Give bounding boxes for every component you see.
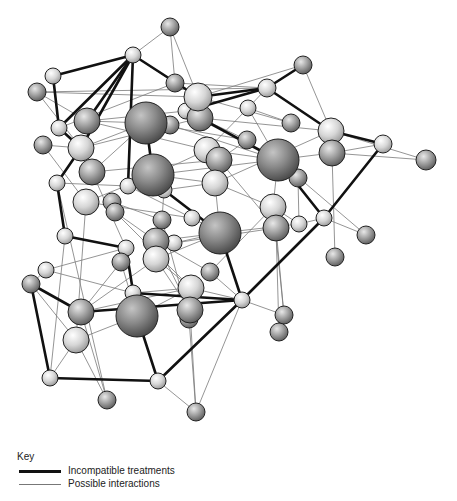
treatment-sphere [22,275,40,293]
treatment-sphere [28,83,46,101]
treatment-sphere [282,114,300,132]
interaction-edge [189,319,196,412]
treatment-sphere [374,135,392,153]
treatment-sphere [319,140,345,166]
treatment-sphere [38,262,54,278]
treatment-sphere [45,68,61,84]
treatment-sphere [206,147,232,173]
treatment-sphere [316,210,332,226]
treatment-sphere [42,370,58,386]
interaction-edge [50,236,65,378]
treatment-sphere [184,83,212,111]
treatment-sphere [112,253,130,271]
interaction-edge [332,153,426,160]
treatment-sphere [166,74,184,92]
treatment-sphere [202,170,228,196]
treatment-sphere [294,56,312,74]
treatment-sphere [234,292,250,308]
treatment-sphere [263,215,289,241]
legend-item-possible: Possible interactions [17,478,257,491]
incompatible-edge [50,378,158,381]
treatment-sphere [74,108,100,134]
treatment-sphere [357,226,375,244]
treatment-sphere [201,263,219,281]
treatment-sphere [270,323,288,341]
legend-label-incompatible: Incompatible treatments [68,465,175,476]
treatment-nodes [22,18,436,421]
treatment-sphere [257,139,299,181]
treatment-sphere [199,212,241,254]
treatment-sphere [161,18,179,36]
treatment-sphere [125,47,141,63]
treatment-sphere [51,120,67,136]
treatment-sphere [291,216,307,232]
treatment-network-diagram [0,0,457,440]
treatment-sphere [258,79,276,97]
legend-item-incompatible: Incompatible treatments [17,465,257,478]
treatment-sphere [125,102,167,144]
legend: Key Incompatible treatments Possible int… [17,451,257,495]
treatment-sphere [106,203,124,221]
treatment-sphere [153,211,171,229]
treatment-sphere [238,131,256,149]
incompatible-edge [81,300,242,312]
legend-title: Key [17,451,34,462]
treatment-sphere [98,391,116,409]
treatment-sphere [187,403,205,421]
treatment-sphere [68,135,94,161]
treatment-sphere [326,248,344,266]
treatment-sphere [116,295,158,337]
interaction-edge [196,300,242,412]
treatment-sphere [57,228,73,244]
treatment-sphere [34,136,52,154]
treatment-sphere [150,373,166,389]
legend-label-possible: Possible interactions [68,478,160,489]
treatment-sphere [184,210,200,226]
treatment-sphere [79,159,105,185]
interaction-edge [81,312,107,400]
treatment-sphere [49,175,65,191]
treatment-sphere [416,150,436,170]
thick-line-swatch [19,470,61,473]
treatment-sphere [63,327,89,353]
treatment-sphere [177,297,203,323]
interaction-edge [37,92,198,97]
incompatible-edge [65,236,126,248]
treatment-sphere [275,306,293,324]
incompatible-edge [31,284,50,378]
treatment-sphere [143,246,169,272]
thin-line-swatch [19,484,61,485]
treatment-sphere [68,299,94,325]
treatment-sphere [240,100,256,116]
treatment-sphere [132,154,174,196]
interaction-edge [57,183,107,400]
treatment-sphere [73,189,99,215]
